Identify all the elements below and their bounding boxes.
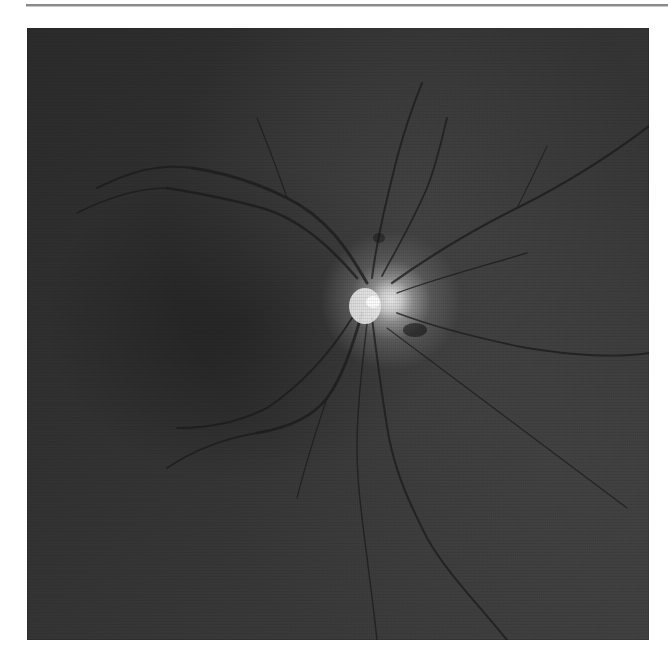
- top-divider-rule: [26, 4, 668, 7]
- image-grain-overlay: [27, 28, 649, 640]
- fundus-image: Grayscale fundus image showing optic dis…: [27, 28, 649, 640]
